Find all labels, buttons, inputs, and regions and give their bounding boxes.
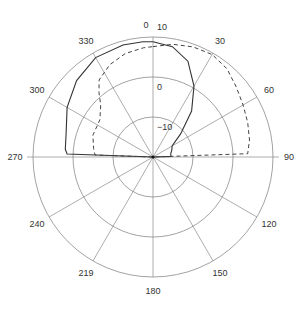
radial-label: −10 [157, 122, 172, 132]
angle-label: 30 [215, 36, 225, 46]
angle-label: 0 [143, 20, 148, 30]
series-solid-curve [65, 42, 194, 157]
grid-spoke [93, 157, 153, 261]
polar-chart: 0306090120150180219240270300330 100−10 [0, 0, 302, 309]
radial-label: 0 [157, 82, 162, 92]
angle-label: 90 [284, 152, 294, 162]
angle-label: 270 [7, 152, 22, 162]
grid-spoke [153, 157, 257, 217]
angle-label: 219 [78, 268, 93, 278]
angle-label: 120 [262, 219, 277, 229]
grid-spoke [153, 157, 213, 261]
angle-label: 300 [29, 85, 44, 95]
angle-label: 60 [264, 85, 274, 95]
center-point [151, 155, 154, 158]
angle-label: 180 [145, 286, 160, 296]
radial-label: 10 [157, 22, 167, 32]
grid-spoke [153, 53, 213, 157]
angle-label: 150 [212, 268, 227, 278]
grid-spoke [49, 157, 153, 217]
grid-spoke [93, 53, 153, 157]
angle-label: 240 [29, 219, 44, 229]
angle-label: 330 [78, 36, 93, 46]
